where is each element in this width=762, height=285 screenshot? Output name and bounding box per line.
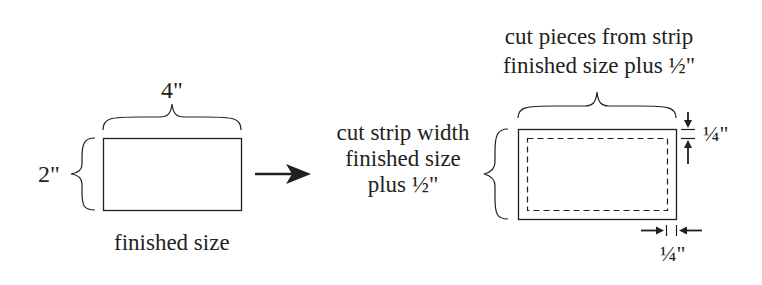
seam-allowance-top-indicator bbox=[681, 112, 695, 164]
arrow-icon bbox=[255, 164, 311, 184]
height-label: 2" bbox=[38, 162, 60, 186]
top-brace-left bbox=[103, 104, 241, 130]
cut-strip-label-line1: cut strip width bbox=[323, 121, 483, 144]
seam-top-label: ¼" bbox=[703, 123, 728, 145]
cut-rectangle bbox=[519, 130, 677, 220]
cut-strip-label-line2: finished size bbox=[323, 147, 483, 170]
finished-size-caption: finished size bbox=[114, 231, 230, 254]
seam-line-dashed bbox=[528, 139, 668, 211]
finished-rectangle bbox=[104, 139, 242, 211]
side-brace-right bbox=[484, 129, 508, 219]
cut-strip-label-line3: plus ½" bbox=[323, 173, 483, 196]
width-label: 4" bbox=[161, 78, 183, 102]
cut-pieces-label-line2: finished size plus ½" bbox=[494, 54, 704, 77]
cut-pieces-label-line1: cut pieces from strip bbox=[494, 25, 704, 48]
side-brace-left bbox=[71, 138, 95, 210]
seam-bottom-label: ¼" bbox=[660, 243, 685, 265]
seam-allowance-bottom-indicator bbox=[641, 225, 702, 236]
top-brace-right bbox=[518, 92, 676, 118]
